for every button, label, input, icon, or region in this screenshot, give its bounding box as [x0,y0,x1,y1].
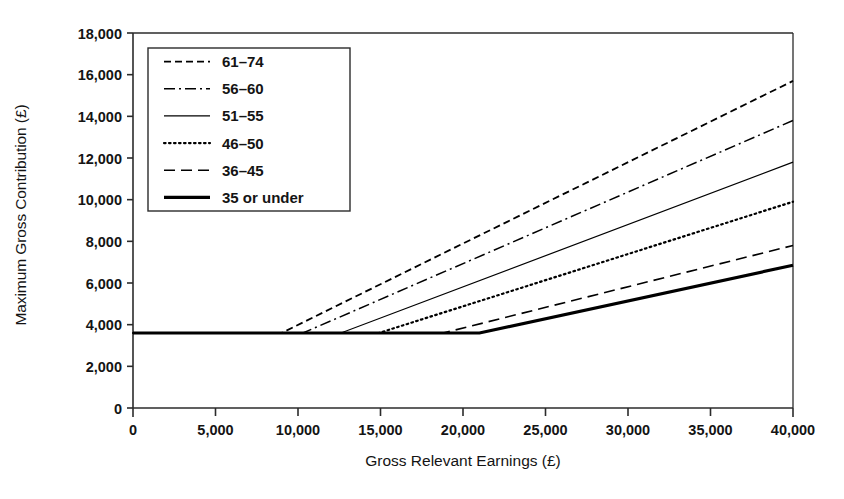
x-tick-label: 20,000 [441,422,485,438]
y-tick-label: 14,000 [78,109,122,125]
x-tick-label: 40,000 [771,422,815,438]
series-line [133,246,793,334]
x-tick-label: 25,000 [523,422,567,438]
x-tick-label: 30,000 [606,422,650,438]
legend-item-label: 46–50 [222,135,264,152]
legend-item-label: 61–74 [222,53,264,70]
y-tick-label: 8,000 [86,234,122,250]
y-tick-label: 12,000 [78,151,122,167]
legend-item-label: 51–55 [222,107,264,124]
legend: 61–7456–6051–5546–5036–4535 or under [148,48,350,211]
legend-item-label: 56–60 [222,80,264,97]
x-tick-label: 35,000 [688,422,732,438]
legend-item-label: 36–45 [222,162,264,179]
y-tick-label: 10,000 [78,192,122,208]
legend-box [148,48,350,211]
x-tick-label: 5,000 [197,422,233,438]
x-axis-ticks: 05,00010,00015,00020,00025,00030,00035,0… [129,408,815,438]
x-tick-label: 10,000 [276,422,320,438]
series-line [133,202,793,333]
y-tick-label: 16,000 [78,67,122,83]
y-tick-label: 18,000 [78,26,122,42]
y-tick-label: 6,000 [86,276,122,292]
plot-svg: 02,0004,0006,0008,00010,00012,00014,0001… [0,0,844,499]
y-tick-label: 0 [114,401,122,417]
series-line [133,265,793,333]
x-tick-label: 0 [129,422,137,438]
y-tick-label: 2,000 [86,359,122,375]
legend-item-label: 35 or under [222,189,304,206]
y-axis-ticks: 02,0004,0006,0008,00010,00012,00014,0001… [78,26,133,417]
x-tick-label: 15,000 [358,422,402,438]
chart-container: Maximum Gross Contribution (£) Gross Rel… [0,0,844,499]
y-tick-label: 4,000 [86,317,122,333]
